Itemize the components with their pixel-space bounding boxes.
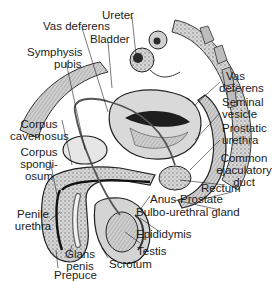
intestine <box>130 31 180 77</box>
label-testis: Testis <box>137 245 166 257</box>
label-corpus-cavernosus-line2: cavernosus <box>10 130 69 142</box>
label-common-ejaculatory-duct-line1: Common <box>214 152 274 164</box>
prostate-shape <box>159 166 191 190</box>
label-vas-deferens-right-line1: Vas <box>226 70 245 82</box>
label-prepuce: Prepuce <box>54 269 97 281</box>
label-seminal-vesicle-line2: vesicle <box>222 108 257 120</box>
label-vas-deferens-right-line2: deferens <box>219 82 264 94</box>
label-corpus-cavernosus-line1: Corpus <box>14 118 64 130</box>
label-corpus-spongiosum-line1: Corpus <box>14 146 64 158</box>
label-prostatic-urethra-line2: urethra <box>222 134 258 146</box>
label-corpus-spongiosum-line2: spongi- <box>14 158 64 170</box>
label-symphysis-pubis-line1: Symphysis <box>27 46 81 58</box>
label-scrotum: Scrotum <box>109 258 152 270</box>
label-penile-urethra-line1: Penile <box>10 208 56 220</box>
label-glans-penis-line1: Glans <box>60 248 100 260</box>
label-anus: Anus <box>150 193 176 205</box>
label-prostatic-urethra-line1: Prostatic <box>222 122 267 134</box>
label-seminal-vesicle-line1: Seminal <box>222 96 264 108</box>
label-vas-deferens-upper: Vas deferens <box>43 20 110 32</box>
label-penile-urethra-line2: urethra <box>10 220 56 232</box>
label-corpus-spongiosum-line3: osum <box>14 170 64 182</box>
label-symphysis-pubis-line2: pubis <box>54 58 82 70</box>
label-prostate: Prostate <box>180 193 223 205</box>
label-bulbo-urethral-gland: Bulbo-urethral gland <box>136 206 240 218</box>
label-epididymis: Epididymis <box>136 228 192 240</box>
label-common-ejaculatory-duct-line2: ejaculatory <box>214 164 274 176</box>
label-bladder: Bladder <box>90 33 130 45</box>
